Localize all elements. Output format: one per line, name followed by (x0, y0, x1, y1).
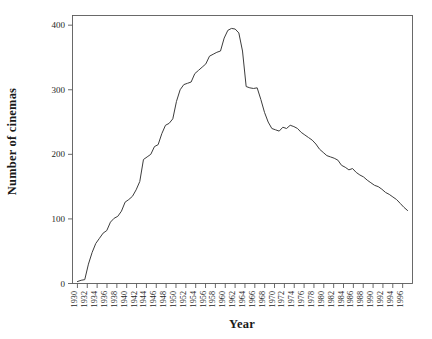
x-tick-label: 1950 (169, 291, 178, 307)
x-tick-label: 1972 (277, 291, 286, 307)
x-tick-label: 1932 (80, 291, 89, 307)
x-tick-label: 1980 (317, 291, 326, 307)
x-tick-label: 1960 (218, 291, 227, 307)
x-tick-label: 1984 (337, 291, 346, 307)
x-tick-label: 1948 (159, 291, 168, 307)
x-tick-label: 1974 (287, 291, 296, 307)
y-tick-label: 0 (61, 279, 66, 289)
x-tick-label: 1954 (189, 291, 198, 307)
x-tick-label: 1970 (268, 291, 277, 307)
x-tick-label: 1978 (307, 291, 316, 307)
x-tick-label: 1958 (208, 291, 217, 307)
x-tick-label: 1964 (238, 291, 247, 307)
x-tick-label: 1936 (100, 291, 109, 307)
x-tick-label: 1940 (120, 291, 129, 307)
x-tick-label: 1994 (386, 291, 395, 307)
y-axis-ticks: 0100200300400 (52, 20, 73, 288)
y-tick-label: 400 (52, 20, 66, 30)
plot-canvas: 0100200300400 19301932193419361938194019… (0, 0, 432, 339)
x-tick-label: 1988 (356, 291, 365, 307)
x-tick-label: 1938 (110, 291, 119, 307)
x-axis-ticks: 1930193219341936193819401942194419461948… (70, 284, 404, 308)
x-tick-label: 1990 (366, 291, 375, 307)
x-tick-label: 1944 (139, 291, 148, 307)
x-tick-label: 1962 (228, 291, 237, 307)
x-tick-label: 1930 (70, 291, 79, 307)
x-tick-label: 1934 (90, 291, 99, 307)
y-tick-label: 200 (52, 149, 66, 159)
x-tick-label: 1956 (199, 291, 208, 307)
x-tick-label: 1976 (297, 291, 306, 307)
x-tick-label: 1966 (248, 291, 257, 307)
cinema-count-line-chart: Number of cinemas Year 0100200300400 193… (0, 0, 432, 339)
x-tick-label: 1952 (179, 291, 188, 307)
x-tick-label: 1982 (327, 291, 336, 307)
x-tick-label: 1942 (130, 291, 139, 307)
x-tick-label: 1968 (258, 291, 267, 307)
x-tick-label: 1996 (396, 291, 405, 307)
y-tick-label: 300 (52, 85, 66, 95)
x-tick-label: 1992 (376, 291, 385, 307)
x-tick-label: 1986 (346, 291, 355, 307)
y-tick-label: 100 (52, 214, 66, 224)
x-tick-label: 1946 (149, 291, 158, 307)
